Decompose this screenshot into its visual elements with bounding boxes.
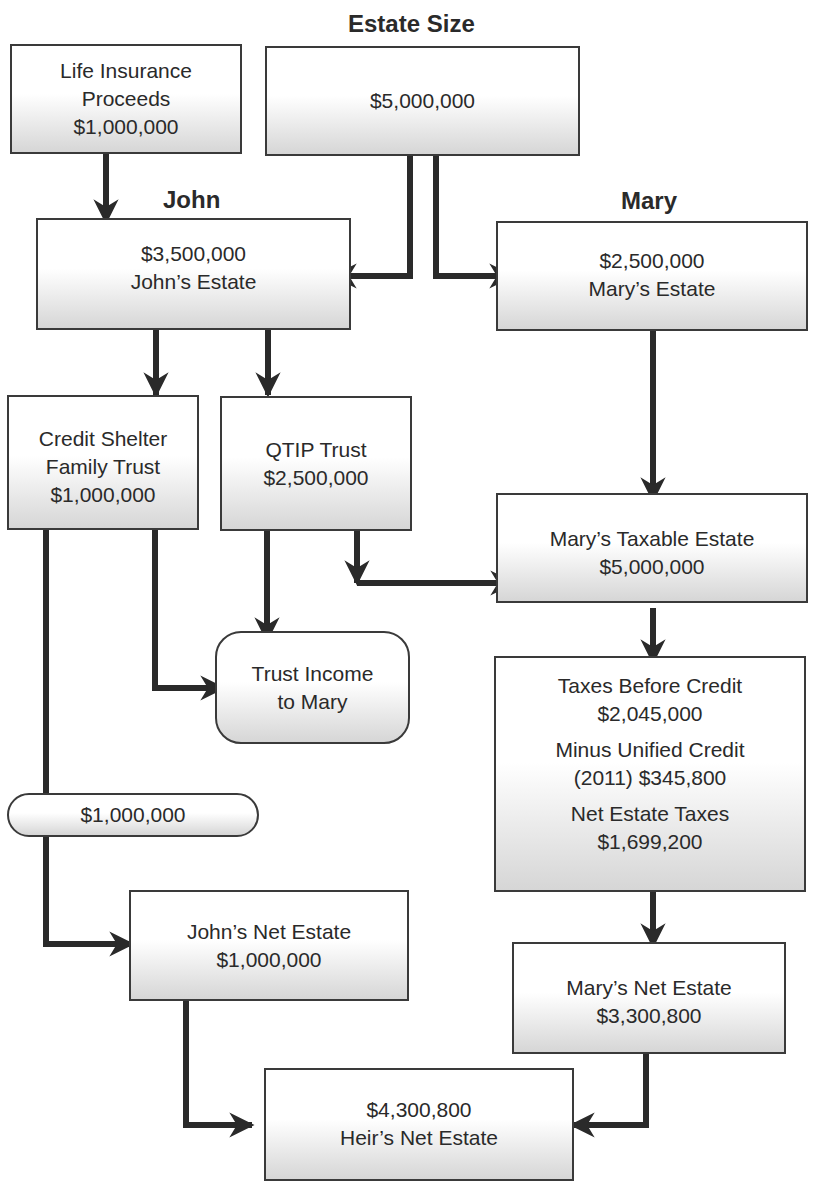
node-marys-taxable-estate: Mary’s Taxable Estate $5,000,000 bbox=[496, 493, 808, 603]
net-estate-taxes-label: Net Estate Taxes bbox=[571, 800, 729, 828]
taxes-before-credit-value: $2,045,000 bbox=[558, 700, 742, 728]
node-transfer-amount: $1,000,000 bbox=[7, 793, 259, 837]
diagram-title: Estate Size bbox=[348, 10, 475, 38]
node-life-insurance: Life Insurance Proceeds $1,000,000 bbox=[10, 44, 242, 154]
node-value: $4,300,800 bbox=[366, 1096, 471, 1124]
node-text: Heir’s Net Estate bbox=[340, 1124, 498, 1152]
node-value: $1,000,000 bbox=[73, 113, 178, 141]
node-text: John’s Estate bbox=[131, 268, 257, 296]
node-heirs-net-estate: $4,300,800 Heir’s Net Estate bbox=[264, 1068, 574, 1181]
node-value: $1,000,000 bbox=[216, 946, 321, 974]
node-text: Family Trust bbox=[46, 453, 160, 481]
node-text: Mary’s Taxable Estate bbox=[550, 525, 755, 553]
arrow-pill-to-johns-net bbox=[46, 834, 132, 944]
node-text: Life Insurance bbox=[60, 57, 192, 85]
unified-credit-value: (2011) $345,800 bbox=[555, 764, 744, 792]
node-text: to Mary bbox=[277, 688, 347, 716]
node-johns-estate: $3,500,000 John’s Estate bbox=[36, 218, 351, 330]
taxes-before-credit-label: Taxes Before Credit bbox=[558, 672, 742, 700]
node-text: Trust Income bbox=[252, 660, 374, 688]
node-text: Mary’s Net Estate bbox=[566, 974, 731, 1002]
node-text: Mary’s Estate bbox=[589, 275, 716, 303]
node-tax-calculation: Taxes Before Credit $2,045,000 Minus Uni… bbox=[494, 656, 806, 892]
node-trust-income-to-mary: Trust Income to Mary bbox=[215, 631, 410, 744]
node-qtip-trust: QTIP Trust $2,500,000 bbox=[220, 396, 412, 531]
node-text: John’s Net Estate bbox=[187, 918, 351, 946]
arrow-marys-net-to-heirs bbox=[572, 1053, 646, 1125]
label-john: John bbox=[163, 186, 220, 214]
node-credit-shelter-trust: Credit Shelter Family Trust $1,000,000 bbox=[7, 395, 199, 530]
node-estate-size: $5,000,000 bbox=[265, 46, 580, 156]
net-estate-taxes-value: $1,699,200 bbox=[571, 828, 729, 856]
node-text: Proceeds bbox=[82, 85, 171, 113]
node-value: $3,300,800 bbox=[596, 1002, 701, 1030]
node-value: $5,000,000 bbox=[599, 553, 704, 581]
node-value: $2,500,000 bbox=[599, 247, 704, 275]
node-value: $1,000,000 bbox=[50, 481, 155, 509]
arrow-credit-to-trust-income bbox=[155, 530, 223, 688]
node-text: QTIP Trust bbox=[265, 436, 366, 464]
node-value: $5,000,000 bbox=[370, 87, 475, 115]
node-text: Credit Shelter bbox=[39, 425, 167, 453]
node-value: $3,500,000 bbox=[141, 240, 246, 268]
label-mary: Mary bbox=[621, 187, 677, 215]
node-value: $2,500,000 bbox=[263, 464, 368, 492]
arrow-johns-net-to-heirs bbox=[186, 1000, 252, 1125]
node-johns-net-estate: John’s Net Estate $1,000,000 bbox=[129, 890, 409, 1001]
node-value: $1,000,000 bbox=[80, 801, 185, 829]
unified-credit-label: Minus Unified Credit bbox=[555, 736, 744, 764]
node-marys-net-estate: Mary’s Net Estate $3,300,800 bbox=[512, 942, 786, 1054]
node-marys-estate: $2,500,000 Mary’s Estate bbox=[496, 221, 808, 331]
